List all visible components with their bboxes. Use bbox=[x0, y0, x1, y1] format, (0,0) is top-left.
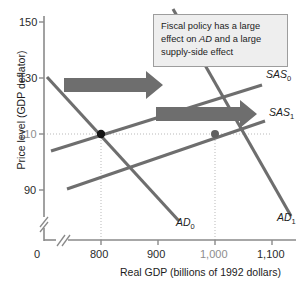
y-tick-label-0: 0 bbox=[34, 249, 40, 260]
callout-line-2-post: and a large bbox=[212, 34, 261, 44]
x-axis-title: Real GDP (billions of 1992 dollars) bbox=[120, 266, 281, 278]
equilibrium-dot-new bbox=[211, 130, 219, 138]
callout-line-2-emphasis: AD bbox=[199, 34, 212, 44]
curve-label-ad0: AD0 bbox=[176, 217, 195, 231]
x-tick-label-900: 900 bbox=[147, 249, 165, 260]
x-tick-label-1000: 1,000 bbox=[200, 249, 228, 260]
callout-line-2-pre: effect on bbox=[161, 34, 199, 44]
equilibrium-dot-initial bbox=[97, 130, 105, 138]
curve-label-sas0: SAS0 bbox=[266, 69, 291, 83]
x-tick-label-1100: 1,100 bbox=[257, 249, 285, 260]
curve-label-ad1: AD1 bbox=[277, 212, 296, 226]
sas-shift-arrow-icon bbox=[156, 100, 257, 128]
ad-as-fiscal-policy-chart: 150 130 110 90 0 800 900 1,000 1,100 Pri… bbox=[0, 0, 303, 284]
callout-line-1: Fiscal policy has a large bbox=[161, 20, 281, 33]
y-axis-break-mark-1 bbox=[40, 217, 48, 227]
callout-line-2: effect on AD and a large bbox=[161, 33, 281, 46]
y-tick-label-150: 150 bbox=[19, 17, 37, 28]
curve-ad0 bbox=[47, 77, 179, 221]
curve-label-sas1: SAS1 bbox=[269, 107, 294, 121]
y-tick-label-90: 90 bbox=[24, 185, 36, 196]
annotation-callout-box: Fiscal policy has a large effect on AD a… bbox=[153, 14, 288, 67]
callout-line-3: supply-side effect bbox=[161, 46, 281, 59]
ad-shift-arrow-icon bbox=[64, 71, 163, 99]
y-axis-title: Price level (GDP deflator) bbox=[15, 45, 27, 175]
x-tick-label-800: 800 bbox=[90, 249, 108, 260]
